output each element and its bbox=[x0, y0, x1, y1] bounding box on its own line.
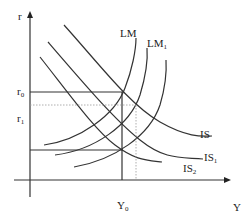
is-label: IS bbox=[200, 129, 210, 140]
lm1-label: LM1 bbox=[147, 38, 167, 51]
is1-curve bbox=[48, 42, 203, 159]
is-curve bbox=[64, 25, 212, 136]
is2-label: IS2 bbox=[183, 163, 196, 176]
is2-curve bbox=[40, 57, 162, 162]
y-axis-label: r bbox=[18, 11, 22, 22]
r0-label: r0 bbox=[17, 86, 24, 99]
x-axis-arrow-icon bbox=[224, 177, 231, 183]
is1-label: IS1 bbox=[204, 152, 217, 165]
r1-label: r1 bbox=[17, 113, 24, 126]
y0-label: Y0 bbox=[117, 200, 128, 213]
y-axis-arrow-icon bbox=[27, 11, 33, 18]
lm2-curve bbox=[74, 60, 166, 167]
x-axis-label: Y bbox=[233, 202, 241, 213]
lm-label: LM bbox=[120, 28, 137, 39]
